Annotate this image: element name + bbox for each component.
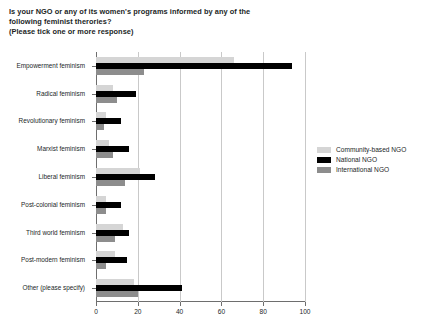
y-axis-tick <box>92 149 96 150</box>
y-axis-tick <box>92 288 96 289</box>
bar <box>96 124 104 130</box>
y-axis-tick <box>92 66 96 67</box>
bar-group <box>96 57 305 75</box>
y-axis-label: Other (please specify) <box>22 284 85 292</box>
chart-legend: Community-based NGONational NGOInternati… <box>317 145 417 175</box>
legend-swatch <box>317 167 331 173</box>
chart-title-line-1: Is your NGO or any of its women's progra… <box>9 7 289 17</box>
chart-title-line-3: (Please tick one or more response) <box>9 27 289 37</box>
y-axis-tick <box>92 177 96 178</box>
x-axis-tick <box>221 302 222 306</box>
bar-group <box>96 251 305 269</box>
x-axis-tick <box>305 302 306 306</box>
plot-area <box>96 52 305 302</box>
x-axis-tick <box>263 302 264 306</box>
bar-group <box>96 85 305 103</box>
legend-item: Community-based NGO <box>317 145 417 154</box>
bar-group <box>96 279 305 297</box>
y-axis-tick <box>92 233 96 234</box>
y-axis-label: Marxist feminism <box>37 145 85 153</box>
y-axis-tick <box>92 260 96 261</box>
legend-swatch <box>317 147 331 153</box>
x-axis-tick <box>138 302 139 306</box>
x-axis-label: 20 <box>128 308 148 316</box>
y-axis-label: Third world feminism <box>26 229 85 237</box>
y-axis-label: Radical feminism <box>36 90 85 98</box>
y-axis-label: Liberal feminism <box>38 173 85 181</box>
y-axis-label: Post-colonial feminism <box>21 201 85 209</box>
bar-group <box>96 140 305 158</box>
bar-group <box>96 168 305 186</box>
y-axis-tick <box>92 121 96 122</box>
legend-label: National NGO <box>336 155 377 164</box>
bar-group <box>96 224 305 242</box>
legend-swatch <box>317 157 331 163</box>
y-axis-label: Post-modern feminism <box>21 256 85 264</box>
bar <box>96 208 106 214</box>
bar <box>96 97 117 103</box>
bar <box>96 69 144 75</box>
x-axis-label: 60 <box>211 308 231 316</box>
legend-label: Community-based NGO <box>336 145 406 154</box>
legend-label: International NGO <box>336 165 389 174</box>
bar-group <box>96 196 305 214</box>
x-axis-label: 40 <box>170 308 190 316</box>
x-axis-label: 100 <box>295 308 315 316</box>
bar <box>96 236 115 242</box>
bar <box>96 152 113 158</box>
y-axis-label: Empowerment feminism <box>16 62 85 70</box>
y-axis-labels: Empowerment feminismRadical feminismRevo… <box>0 52 92 302</box>
chart-container: Is your NGO or any of its women's progra… <box>0 0 422 336</box>
gridline <box>305 52 306 302</box>
x-axis-tick <box>96 302 97 306</box>
x-axis-label: 80 <box>253 308 273 316</box>
bar <box>96 180 125 186</box>
legend-item: National NGO <box>317 155 417 164</box>
bar <box>96 291 138 297</box>
chart-title: Is your NGO or any of its women's progra… <box>9 7 289 38</box>
y-axis-tick <box>92 205 96 206</box>
bar <box>96 263 106 269</box>
bar-group <box>96 112 305 130</box>
x-axis-label: 0 <box>86 308 106 316</box>
y-axis-tick <box>92 94 96 95</box>
chart-title-line-2: following feminist therories? <box>9 17 289 27</box>
x-axis-tick <box>180 302 181 306</box>
y-axis-label: Revolutionary feminism <box>19 117 85 125</box>
legend-item: International NGO <box>317 165 417 174</box>
